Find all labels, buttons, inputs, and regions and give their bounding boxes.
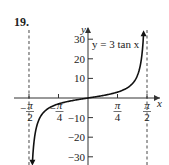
chart: 19. −π2−π4π4π2302010−10−20−30 y = 3 tan …: [0, 0, 169, 165]
curve-arrow-bottom: [29, 160, 35, 165]
x-tick-label-numerator: π: [27, 99, 33, 111]
x-tick-label-denominator: 2: [144, 111, 150, 123]
problem-number: 19.: [14, 15, 29, 29]
x-tick-label-denominator: 2: [27, 111, 33, 123]
function-annotation: y = 3 tan x: [92, 38, 140, 50]
curve-arrow-top: [141, 30, 147, 36]
x-tick-label-sign: −: [20, 102, 26, 114]
x-tick-label-numerator: π: [115, 99, 121, 111]
y-tick-label: −20: [68, 131, 86, 143]
y-axis-arrow: [85, 27, 91, 33]
x-tick-label-numerator: π: [57, 99, 63, 111]
x-tick-label-denominator: 4: [57, 111, 63, 123]
x-axis-label: x: [156, 97, 162, 109]
y-tick-label: 10: [74, 72, 86, 84]
y-tick-label: 20: [74, 53, 86, 65]
y-axis-label: y: [80, 23, 86, 35]
y-tick-label: −10: [68, 112, 86, 124]
y-tick-label: −30: [68, 151, 86, 163]
x-tick-label-numerator: π: [144, 99, 150, 111]
y-tick-label: 30: [74, 33, 86, 45]
x-tick-label-denominator: 4: [115, 111, 121, 123]
